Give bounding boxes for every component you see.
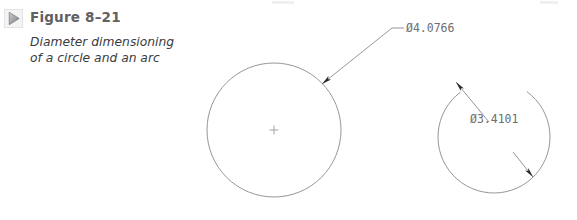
arc-dimension-line-lower: [513, 152, 533, 177]
figure-container: Figure 8–21 Diameter dimensioning of a c…: [0, 0, 577, 220]
arc-diameter-label: Ø3.4101: [470, 112, 519, 126]
circle-diameter-label: Ø4.0766: [406, 21, 455, 35]
circle-center-mark: [270, 126, 279, 135]
arc-outline: [438, 92, 550, 193]
technical-drawing: Ø4.0766 Ø3.4101: [0, 0, 577, 220]
circle-leader-line: [322, 28, 404, 84]
